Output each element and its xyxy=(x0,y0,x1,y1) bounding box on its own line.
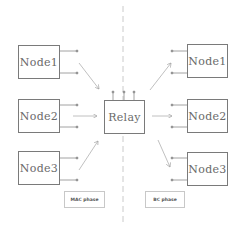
left-node-3-label: Node3 xyxy=(20,162,58,175)
relay-antennas xyxy=(112,91,135,100)
right-node-1: Node1 xyxy=(187,44,228,78)
right-node-2-label: Node2 xyxy=(188,110,226,123)
mac-phase-text: MAC phase xyxy=(70,197,98,202)
bc-phase-label: BC phase xyxy=(145,191,185,208)
left-node-1-label: Node1 xyxy=(20,56,58,69)
left-node-1: Node1 xyxy=(18,45,60,79)
mac-phase-arrows xyxy=(73,63,99,170)
bc-phase-text: BC phase xyxy=(153,197,177,202)
relay-node: Relay xyxy=(104,100,145,134)
right-node-2: Node2 xyxy=(187,99,228,133)
left-node-antennas xyxy=(60,50,78,181)
relay-label: Relay xyxy=(108,111,141,124)
right-node-antennas xyxy=(171,50,187,181)
bc-phase-arrows xyxy=(150,63,172,167)
right-node-3: Node3 xyxy=(187,152,228,186)
left-node-2-label: Node2 xyxy=(20,110,58,123)
right-node-1-label: Node1 xyxy=(188,55,226,68)
right-node-3-label: Node3 xyxy=(188,163,226,176)
left-node-2: Node2 xyxy=(18,99,60,133)
diagram-canvas: Node1 Node2 Node3 Relay Node1 Node2 Node… xyxy=(0,0,240,227)
mac-phase-label: MAC phase xyxy=(64,191,105,208)
left-node-3: Node3 xyxy=(18,151,60,185)
